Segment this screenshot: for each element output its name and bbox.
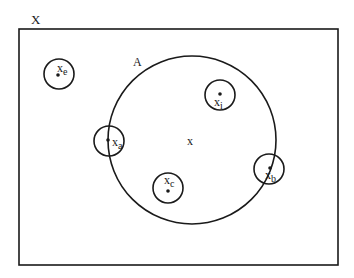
neighborhood-x-c: xc xyxy=(153,173,183,203)
set-a-label: A xyxy=(133,55,142,69)
neighborhood-x-e: xe xyxy=(44,59,74,89)
point-label: xb xyxy=(265,168,276,184)
point-label: xi xyxy=(214,95,223,111)
point-label: xa xyxy=(112,135,123,151)
point-dot xyxy=(166,189,170,193)
point-label: xe xyxy=(57,61,68,77)
set-diagram: X A x xe xi xa xc xb xyxy=(0,0,354,278)
neighborhood-x-b: xb xyxy=(254,154,284,184)
universe-label: X xyxy=(31,12,41,27)
universe-rectangle xyxy=(19,29,338,265)
point-label: xc xyxy=(164,173,175,189)
neighborhood-x-i: xi xyxy=(205,80,235,111)
point-dot xyxy=(106,138,110,142)
center-point-label: x xyxy=(187,134,193,148)
